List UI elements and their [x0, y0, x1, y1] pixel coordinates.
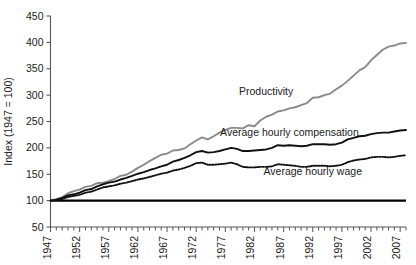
x-tick-label: 1982 [244, 236, 256, 260]
y-tick-label: 100 [26, 194, 44, 206]
x-tick-label: 1952 [70, 236, 82, 260]
y-tick-label: 400 [26, 36, 44, 48]
x-tick-label: 1962 [128, 236, 140, 260]
y-tick-label: 450 [26, 10, 44, 22]
x-tick-label: 1977 [215, 236, 227, 260]
x-tick-label: 1947 [41, 236, 53, 260]
y-tick-label: 150 [26, 168, 44, 180]
y-axis-title: Index (1947 = 100) [2, 77, 14, 165]
chart-container: 50100150200250300350400450Index (1947 = … [0, 0, 416, 265]
series-label-0: Productivity [239, 85, 294, 97]
x-tick-label: 1992 [303, 236, 315, 260]
line-chart: 50100150200250300350400450Index (1947 = … [0, 0, 416, 265]
series-label-2: Average hourly wage [264, 165, 363, 177]
x-tick-label: 1957 [99, 236, 111, 260]
y-tick-label: 300 [26, 89, 44, 101]
x-tick-label: 2002 [361, 236, 373, 260]
y-tick-label: 350 [26, 62, 44, 74]
y-tick-label: 200 [26, 141, 44, 153]
series-line-2 [51, 155, 407, 200]
x-tick-label: 2007 [390, 236, 402, 260]
x-tick-label: 1987 [274, 236, 286, 260]
y-tick-label: 250 [26, 115, 44, 127]
series-label-1: Average hourly compensation [220, 126, 359, 138]
x-tick-label: 1972 [186, 236, 198, 260]
x-tick-label: 1997 [332, 236, 344, 260]
y-tick-label: 50 [32, 221, 44, 233]
x-tick-label: 1967 [157, 236, 169, 260]
